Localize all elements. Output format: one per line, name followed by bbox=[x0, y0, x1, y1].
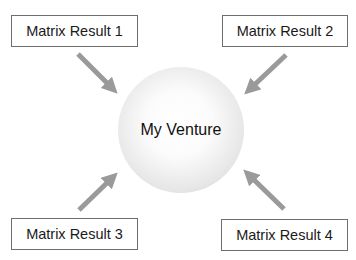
input-box-matrix-result-1: Matrix Result 1 bbox=[11, 15, 138, 47]
input-box-label: Matrix Result 2 bbox=[237, 23, 334, 39]
center-node-my-venture: My Venture bbox=[118, 67, 244, 193]
input-box-matrix-result-2: Matrix Result 2 bbox=[222, 15, 348, 47]
arrow-1 bbox=[78, 54, 112, 88]
arrow-4 bbox=[249, 175, 284, 209]
arrow-2 bbox=[250, 55, 286, 89]
arrow-3 bbox=[79, 178, 112, 210]
center-node-label: My Venture bbox=[141, 121, 222, 139]
input-box-label: Matrix Result 3 bbox=[26, 226, 123, 242]
input-box-matrix-result-4: Matrix Result 4 bbox=[221, 219, 348, 251]
input-box-matrix-result-3: Matrix Result 3 bbox=[11, 218, 138, 250]
input-box-label: Matrix Result 1 bbox=[26, 23, 123, 39]
input-box-label: Matrix Result 4 bbox=[236, 227, 333, 243]
